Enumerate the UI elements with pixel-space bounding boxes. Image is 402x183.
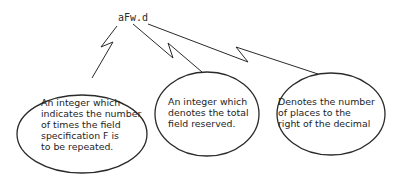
callout-line: An integer which xyxy=(168,96,249,107)
callout-line: field reserved. xyxy=(168,118,249,129)
callout-line: An integer which xyxy=(41,97,141,108)
callout-text-count: An integer which indicates the number of… xyxy=(41,97,141,152)
callout-line: of times the field xyxy=(41,119,141,130)
callout-text-decimal: Denotes the number of places to the righ… xyxy=(278,96,375,129)
callout-line: to be repeated. xyxy=(41,141,141,152)
callout-line: indicates the number xyxy=(41,108,141,119)
diagram-canvas xyxy=(0,0,402,183)
format-spec-label: aFw.d xyxy=(118,12,148,23)
connector-count xyxy=(92,26,117,78)
callout-line: of places to the xyxy=(278,107,375,118)
callout-line: denotes the total xyxy=(168,107,249,118)
callout-line: specification F is xyxy=(41,130,141,141)
callout-line: right of the decimal xyxy=(278,118,375,129)
callout-line: Denotes the number xyxy=(278,96,375,107)
callout-text-width: An integer which denotes the total field… xyxy=(168,96,249,129)
connector-decimal xyxy=(148,24,318,74)
